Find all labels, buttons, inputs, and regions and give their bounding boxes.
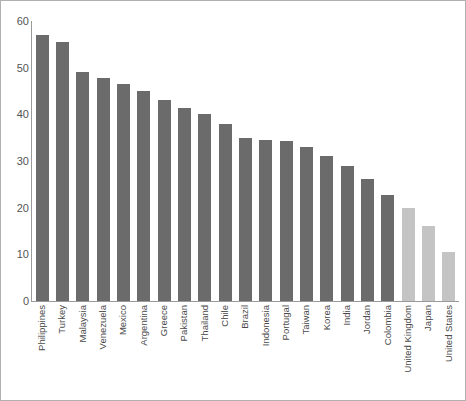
- bar[interactable]: [239, 138, 252, 301]
- x-axis-label: Malaysia: [78, 305, 88, 343]
- x-axis-line: [31, 301, 459, 302]
- x-label-slot: Philippines: [32, 303, 52, 398]
- bar-slot: [73, 21, 93, 301]
- bar[interactable]: [361, 179, 374, 301]
- x-axis-label: Thailand: [200, 305, 210, 341]
- x-axis-category-labels: PhilippinesTurkeyMalaysiaVenezuelaMexico…: [32, 303, 459, 398]
- x-label-slot: Indonesia: [256, 303, 276, 398]
- bar[interactable]: [158, 100, 171, 301]
- x-axis-label: Jordan: [363, 305, 373, 334]
- bar-slot: [398, 21, 418, 301]
- x-label-slot: Greece: [154, 303, 174, 398]
- x-axis-label: Philippines: [37, 305, 47, 351]
- bar-slot: [418, 21, 438, 301]
- bar-slot: [174, 21, 194, 301]
- x-label-slot: Turkey: [52, 303, 72, 398]
- y-axis-tick-30: 30: [1, 155, 29, 167]
- bar[interactable]: [36, 35, 49, 301]
- x-axis-label: Brazil: [241, 305, 251, 329]
- x-label-slot: United Kingdom: [398, 303, 418, 398]
- bar-slot: [195, 21, 215, 301]
- bar-slot: [113, 21, 133, 301]
- x-axis-label: Taiwan: [302, 305, 312, 335]
- bar[interactable]: [97, 78, 110, 301]
- x-label-slot: Jordan: [357, 303, 377, 398]
- x-label-slot: Japan: [418, 303, 438, 398]
- bar-slot: [52, 21, 72, 301]
- bar[interactable]: [137, 91, 150, 301]
- x-axis-label: Chile: [220, 305, 230, 327]
- x-axis-label: Japan: [424, 305, 434, 331]
- x-axis-label: Venezuela: [98, 305, 108, 349]
- bar-slot: [276, 21, 296, 301]
- x-label-slot: Portugal: [276, 303, 296, 398]
- bar-slot: [378, 21, 398, 301]
- x-axis-label: Pakistan: [180, 305, 190, 341]
- x-axis-label: United States: [444, 305, 454, 362]
- x-label-slot: Argentina: [134, 303, 154, 398]
- x-label-slot: Pakistan: [174, 303, 194, 398]
- bar-slot: [134, 21, 154, 301]
- bar-slot: [154, 21, 174, 301]
- x-axis-label: India: [342, 305, 352, 326]
- bar[interactable]: [320, 156, 333, 301]
- x-axis-label: Colombia: [383, 305, 393, 345]
- y-axis-tick-50: 50: [1, 62, 29, 74]
- y-axis-tick-60: 60: [1, 15, 29, 27]
- chart-figure: 0102030405060 PhilippinesTurkeyMalaysiaV…: [0, 0, 466, 401]
- bar[interactable]: [76, 72, 89, 301]
- y-axis-tick-40: 40: [1, 108, 29, 120]
- bar[interactable]: [422, 226, 435, 301]
- x-label-slot: Brazil: [235, 303, 255, 398]
- bar[interactable]: [280, 141, 293, 301]
- x-axis-label: Portugal: [281, 305, 291, 340]
- x-axis-label: Argentina: [139, 305, 149, 346]
- x-label-slot: India: [337, 303, 357, 398]
- bar[interactable]: [117, 84, 130, 301]
- x-label-slot: United States: [439, 303, 459, 398]
- bar[interactable]: [341, 166, 354, 301]
- x-label-slot: Malaysia: [73, 303, 93, 398]
- x-label-slot: Venezuela: [93, 303, 113, 398]
- y-axis-tick-0: 0: [1, 295, 29, 307]
- bar-slot: [215, 21, 235, 301]
- bar-slot: [93, 21, 113, 301]
- bar[interactable]: [402, 208, 415, 301]
- y-axis-tick-20: 20: [1, 202, 29, 214]
- bar[interactable]: [259, 140, 272, 301]
- x-label-slot: Thailand: [195, 303, 215, 398]
- bar-slot: [32, 21, 52, 301]
- x-label-slot: Mexico: [113, 303, 133, 398]
- x-label-slot: Chile: [215, 303, 235, 398]
- bar[interactable]: [442, 252, 455, 301]
- x-label-slot: Taiwan: [296, 303, 316, 398]
- x-label-slot: Korea: [317, 303, 337, 398]
- x-axis-label: Turkey: [58, 305, 68, 334]
- x-label-slot: Colombia: [378, 303, 398, 398]
- bar-series: [32, 21, 459, 301]
- x-axis-label: Indonesia: [261, 305, 271, 346]
- bar-slot: [357, 21, 377, 301]
- bar-slot: [296, 21, 316, 301]
- bar-slot: [317, 21, 337, 301]
- x-axis-label: Greece: [159, 305, 169, 336]
- bar-slot: [439, 21, 459, 301]
- x-axis-label: Korea: [322, 305, 332, 330]
- bar[interactable]: [56, 42, 69, 301]
- bar[interactable]: [381, 195, 394, 301]
- bar[interactable]: [300, 147, 313, 301]
- x-axis-label: Mexico: [119, 305, 129, 335]
- bar[interactable]: [198, 114, 211, 301]
- bar[interactable]: [219, 124, 232, 301]
- bar-slot: [235, 21, 255, 301]
- bar[interactable]: [178, 108, 191, 301]
- y-axis-tick-10: 10: [1, 248, 29, 260]
- x-axis-label: United Kingdom: [403, 305, 413, 373]
- bar-slot: [337, 21, 357, 301]
- bar-slot: [256, 21, 276, 301]
